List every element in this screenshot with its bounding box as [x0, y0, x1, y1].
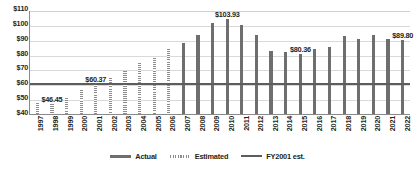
- x-axis-slot: 2001: [88, 116, 103, 142]
- bar-2009: [211, 23, 214, 114]
- legend-label: FY2001 est.: [266, 152, 304, 161]
- bar-2021: [386, 39, 389, 114]
- y-axis-tick-label: $60: [17, 78, 28, 87]
- x-axis-slot: 2019: [351, 116, 366, 142]
- x-axis-slot: 2011: [234, 116, 249, 142]
- bar-1999: [65, 98, 68, 114]
- bar-2006: [167, 49, 170, 114]
- bar-series: [30, 11, 410, 114]
- bar-slot: [264, 11, 279, 114]
- bar-slot: [176, 11, 191, 114]
- x-axis-slot: 2021: [381, 116, 396, 142]
- y-axis-tick-label: $80: [17, 48, 28, 57]
- legend-item[interactable]: FY2001 est.: [241, 152, 304, 161]
- bar-slot: [74, 11, 89, 114]
- legend-item[interactable]: Estimated: [170, 152, 229, 161]
- x-axis-slot: 2022: [395, 116, 410, 142]
- bar-slot: [220, 11, 235, 114]
- value-label-2010: $103.93: [215, 10, 240, 19]
- x-axis-slot: 1999: [58, 116, 73, 142]
- bar-slot: [351, 11, 366, 114]
- value-label-2022: $89.80: [392, 31, 413, 40]
- y-axis-tick-label: $70: [17, 63, 28, 72]
- x-axis-slot: 2003: [117, 116, 132, 142]
- bar-slot: [278, 11, 293, 114]
- bar-slot: [132, 11, 147, 114]
- bar-slot: [235, 11, 250, 114]
- x-axis-slot: 2014: [278, 116, 293, 142]
- bar-1997: [36, 103, 39, 114]
- bar-2018: [343, 36, 346, 114]
- x-axis-slot: 2015: [293, 116, 308, 142]
- x-axis-slot: 2012: [249, 116, 264, 142]
- bar-2010: [226, 19, 229, 114]
- legend-swatch-icon: [170, 155, 191, 158]
- bar-slot: [191, 11, 206, 114]
- x-axis-slot: 2013: [264, 116, 279, 142]
- plot-wrapper: $110$100$90$80$70$60$50$40 $46.45$60.37$…: [0, 0, 415, 170]
- bar-2016: [313, 49, 316, 114]
- x-axis-slot: 1997: [29, 116, 44, 142]
- fy2001-reference-line: [30, 83, 410, 85]
- x-axis-slot: 2002: [102, 116, 117, 142]
- bar-slot: [308, 11, 323, 114]
- bar-slot: [366, 11, 381, 114]
- bar-2012: [255, 35, 258, 114]
- bar-1998: [50, 104, 53, 114]
- x-axis-slot: 2017: [322, 116, 337, 142]
- x-axis-slot: 2009: [205, 116, 220, 142]
- chart-container: $110$100$90$80$70$60$50$40 $46.45$60.37$…: [0, 0, 415, 170]
- bar-2020: [372, 35, 375, 114]
- y-axis-tick-label: $100: [13, 18, 28, 27]
- bar-2007: [182, 43, 185, 114]
- bar-slot: [88, 11, 103, 114]
- x-axis-slot: 2016: [307, 116, 322, 142]
- bar-2001: [94, 84, 97, 114]
- legend-swatch-icon: [110, 155, 131, 158]
- x-axis-slot: 2020: [366, 116, 381, 142]
- legend-label: Actual: [135, 152, 156, 161]
- bar-2005: [153, 58, 156, 114]
- x-axis-slot: 2006: [161, 116, 176, 142]
- bar-slot: [381, 11, 396, 114]
- bar-slot: [337, 11, 352, 114]
- legend-label: Estimated: [195, 152, 229, 161]
- bar-2008: [196, 35, 199, 114]
- x-axis-slot: 2008: [190, 116, 205, 142]
- x-axis-slot: 2018: [337, 116, 352, 142]
- x-axis-slot: 2007: [176, 116, 191, 142]
- bar-slot: [161, 11, 176, 114]
- x-axis-slot: 2005: [146, 116, 161, 142]
- bar-slot: [205, 11, 220, 114]
- x-axis-tick-label-2022: 2022: [402, 116, 411, 131]
- bar-slot: [103, 11, 118, 114]
- bar-slot: [293, 11, 308, 114]
- bar-2022: [401, 40, 404, 114]
- x-axis-slot: 2010: [220, 116, 235, 142]
- y-axis: $110$100$90$80$70$60$50$40: [2, 8, 28, 118]
- y-axis-tick-label: $50: [17, 93, 28, 102]
- x-axis-slot: 2000: [73, 116, 88, 142]
- x-axis-slot: 1998: [44, 116, 59, 142]
- bar-2011: [240, 25, 243, 114]
- bar-slot: [322, 11, 337, 114]
- value-label-2015: $80.36: [290, 45, 311, 54]
- bar-2003: [123, 71, 126, 114]
- bar-2017: [328, 47, 331, 114]
- bar-slot: [118, 11, 133, 114]
- bar-slot: [395, 11, 410, 114]
- legend-item[interactable]: Actual: [110, 152, 156, 161]
- bar-slot: [147, 11, 162, 114]
- chart-legend: ActualEstimatedFY2001 est.: [0, 148, 415, 164]
- x-axis-slot: 2004: [132, 116, 147, 142]
- bar-2019: [357, 39, 360, 114]
- bar-slot: [249, 11, 264, 114]
- bar-2000: [80, 90, 83, 114]
- value-label-1998: $46.45: [42, 95, 63, 104]
- bar-2004: [138, 63, 141, 114]
- y-axis-tick-label: $110: [13, 4, 28, 13]
- y-axis-tick-label: $90: [17, 33, 28, 42]
- legend-swatch-icon: [241, 155, 262, 157]
- x-axis: 1997199819992000200120022003200420052006…: [29, 116, 410, 142]
- y-axis-tick-label: $40: [17, 108, 28, 117]
